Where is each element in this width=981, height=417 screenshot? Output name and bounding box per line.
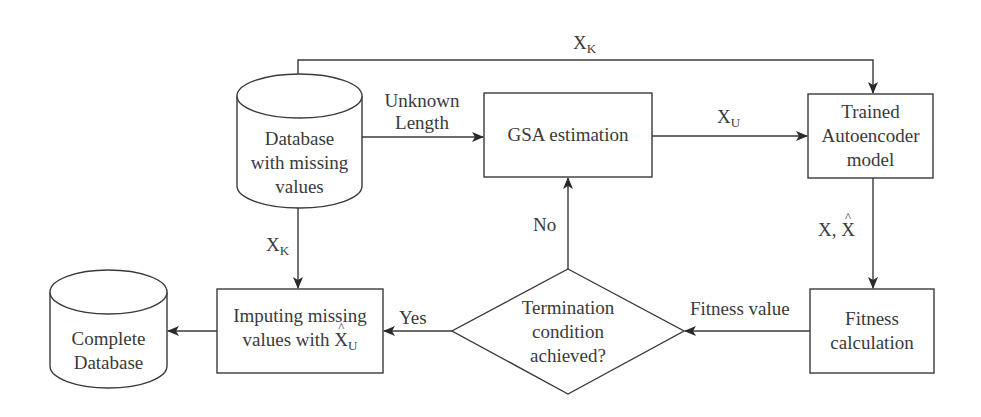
- database-label: Database with missing values: [237, 118, 362, 208]
- x-hat-subscript: U: [348, 338, 357, 353]
- x-xhat-hat: X: [841, 219, 855, 241]
- termination-label-line3: achieved?: [522, 344, 615, 368]
- autoencoder-label-line2: Autoencoder: [821, 124, 919, 148]
- xu-sub: U: [731, 115, 740, 130]
- edge-label-x-xhat: X, X: [818, 219, 855, 241]
- down-xk-x: X: [266, 234, 280, 255]
- termination-label-line2: condition: [522, 320, 615, 344]
- xu-x: X: [717, 106, 731, 127]
- edge-label-down-xk: XK: [266, 234, 289, 262]
- down-xk-sub: K: [280, 243, 289, 258]
- edge-label-top-xk: XK: [573, 32, 596, 60]
- complete-label-line2: Database: [72, 351, 146, 375]
- fitness-label-line2: calculation: [830, 331, 913, 355]
- complete-label-line1: Complete: [72, 327, 146, 351]
- termination-label: Termination condition achieved?: [490, 290, 646, 374]
- edge-label-unknown-length: Unknown Length: [380, 90, 464, 134]
- x-xhat-x: X,: [818, 219, 841, 240]
- edge-label-fitness-value: Fitness value: [690, 298, 790, 320]
- database-label-line2: with missing: [251, 151, 349, 175]
- autoencoder-label-line1: Trained: [821, 100, 919, 124]
- edge-top-xk: [298, 60, 873, 93]
- autoencoder-label: Trained Autoencoder model: [808, 94, 933, 178]
- autoencoder-label-line3: model: [821, 148, 919, 172]
- edge-label-no: No: [533, 214, 556, 236]
- edge-label-xu: XU: [717, 106, 740, 134]
- unknown-length-line1: Unknown: [380, 90, 464, 112]
- imputing-label-line2: values with XU: [233, 328, 367, 358]
- top-xk-x: X: [573, 32, 587, 53]
- edge-label-yes: Yes: [399, 307, 427, 329]
- fitness-label: Fitness calculation: [810, 289, 934, 373]
- gsa-label: GSA estimation: [484, 93, 652, 177]
- complete-database-label: Complete Database: [50, 314, 167, 388]
- top-xk-sub: K: [587, 41, 596, 56]
- unknown-length-line2: Length: [380, 112, 464, 134]
- fitness-label-line1: Fitness: [830, 307, 913, 331]
- termination-label-line1: Termination: [522, 296, 615, 320]
- database-label-line1: Database: [251, 127, 349, 151]
- imputing-label: Imputing missing values with XU: [217, 289, 383, 373]
- gsa-label-text: GSA estimation: [508, 123, 629, 147]
- x-hat-symbol: X: [334, 328, 348, 352]
- imputing-label-line2-text: values with: [243, 329, 330, 350]
- database-label-line3: values: [251, 175, 349, 199]
